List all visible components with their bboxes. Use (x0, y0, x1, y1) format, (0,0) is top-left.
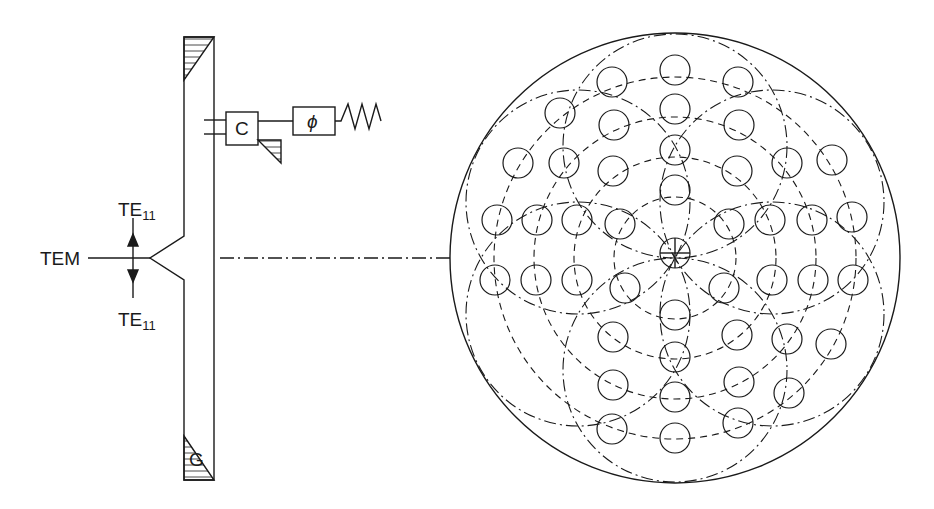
te11-upper-label: TE11 (118, 200, 156, 222)
load-icon (258, 140, 281, 163)
array-aperture (450, 33, 900, 483)
waveguide-body (150, 37, 214, 480)
te11-lower-label: TE11 (118, 310, 156, 332)
antenna-feed-diagram (0, 0, 934, 509)
termination-icon (335, 104, 381, 129)
phase-shifter-label: ϕ (307, 112, 318, 131)
tem-label: TEM (40, 249, 80, 268)
coupler-label: C (235, 119, 249, 138)
guide-label: G (189, 450, 204, 469)
radiating-elements (480, 55, 868, 453)
